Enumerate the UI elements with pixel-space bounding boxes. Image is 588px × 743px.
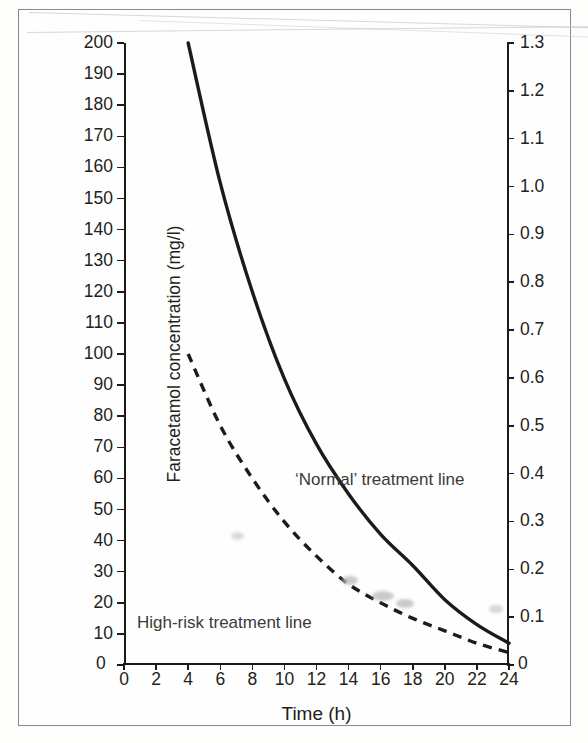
y-left-tick: [117, 229, 124, 231]
scan-smudge: [372, 591, 394, 601]
y-left-tick-label: 170: [84, 128, 113, 146]
y-right-tick-label: 1.0: [520, 178, 544, 196]
y-left-axis-title: Faracetamol concentration (mg/l): [164, 226, 185, 483]
y-left-tick: [117, 384, 124, 386]
y-right-tick-label: 1.2: [520, 82, 544, 100]
x-tick-label: 12: [307, 671, 326, 689]
y-left-tick: [117, 478, 124, 480]
y-left-tick-label: 10: [94, 625, 113, 643]
x-tick-label: 0: [119, 671, 129, 689]
figure-frame: 1020304050607080901001101201301401501601…: [18, 9, 571, 726]
x-tick-label: 6: [215, 671, 225, 689]
y-left-tick: [117, 42, 124, 44]
y-right-tick-label: 0.4: [520, 465, 544, 483]
x-tick-label: 24: [499, 671, 518, 689]
y-left-tick: [117, 260, 124, 262]
y-left-tick-label: 190: [84, 65, 113, 83]
x-tick-label: 18: [403, 671, 422, 689]
x-tick-label: 14: [339, 671, 358, 689]
scanned-page: 1020304050607080901001101201301401501601…: [0, 0, 588, 743]
y-right-tick-label: 0.7: [520, 321, 544, 339]
y-left-tick-label: 20: [94, 594, 113, 612]
y-right-tick-label: 0.3: [520, 513, 544, 531]
y-left-tick-label: 140: [84, 221, 113, 239]
y-right-tick-label: 1.3: [520, 34, 544, 52]
y-left-tick-label: 180: [84, 96, 113, 114]
y-left-tick: [117, 136, 124, 138]
scan-smudge: [396, 599, 414, 608]
y-left-tick-label: 110: [85, 314, 113, 332]
y-left-tick: [117, 167, 124, 169]
x-axis-title: Time (h): [281, 703, 351, 725]
y-left-tick-label: 70: [94, 439, 113, 457]
y-left-tick: [117, 353, 124, 355]
x-tick-label: 22: [467, 671, 486, 689]
y-left-tick: [117, 73, 124, 75]
y-left-tick-label: 100: [84, 345, 113, 363]
x-tick-label: 2: [151, 671, 161, 689]
y-left-tick: [117, 540, 124, 542]
y-left-tick: [117, 415, 124, 417]
y-left-tick-label: 160: [84, 159, 113, 177]
y-left-tick: [117, 291, 124, 293]
plot-area: 1020304050607080901001101201301401501601…: [124, 43, 509, 665]
y-left-tick: [117, 198, 124, 200]
y-left-tick: [117, 104, 124, 106]
y-left-tick-label: 130: [84, 252, 113, 270]
y-left-tick-label: 30: [94, 563, 113, 581]
y-left-tick-label: 40: [94, 532, 113, 550]
y-left-tick-label: 60: [94, 470, 113, 488]
y-left-tick-label: 50: [94, 501, 113, 519]
scan-smudge: [489, 605, 503, 613]
x-tick-label: 10: [275, 671, 294, 689]
annotation-normal-treatment-line: ‘Normal’ treatment line: [295, 470, 464, 490]
y-left-tick: [117, 509, 124, 511]
y-left-tick-label: 150: [84, 190, 113, 208]
curve-normal-treatment-line: [188, 43, 509, 643]
y-left-tick: [117, 633, 124, 635]
y-right-tick-label: 0.2: [520, 561, 544, 579]
y-right-tick-label: 0.6: [520, 369, 544, 387]
y-right-tick-label: 0.9: [520, 226, 544, 244]
x-tick-label: 16: [371, 671, 390, 689]
scan-smudge: [342, 576, 358, 585]
y-right-corner-zero-label: 0: [518, 653, 528, 674]
y-left-tick: [117, 322, 124, 324]
y-left-tick-label: 90: [94, 376, 113, 394]
y-left-tick-label: 120: [84, 283, 113, 301]
y-left-tick: [117, 447, 124, 449]
y-left-corner-zero-label: 0: [96, 653, 106, 674]
y-left-tick-label: 200: [84, 34, 113, 52]
y-right-tick-label: 0.1: [520, 608, 544, 626]
y-left-tick: [117, 602, 124, 604]
x-tick-label: 4: [183, 671, 193, 689]
y-left-tick: [117, 571, 124, 573]
y-left-tick-label: 80: [94, 407, 113, 425]
scan-smudge: [231, 532, 244, 540]
y-right-tick-label: 0.5: [520, 417, 544, 435]
annotation-high-risk-treatment-line: High-risk treatment line: [137, 613, 312, 633]
curve-high-risk-treatment-line: [188, 354, 509, 653]
x-tick-label: 20: [435, 671, 454, 689]
x-tick-label: 8: [247, 671, 257, 689]
y-right-tick-label: 1.1: [520, 130, 544, 148]
y-right-tick-label: 0.8: [520, 273, 544, 291]
